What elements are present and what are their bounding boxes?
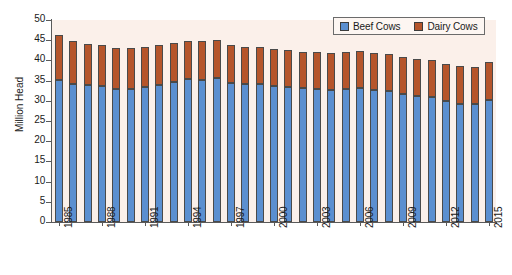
bar-segment-dairy-cows[interactable] [370,53,378,90]
bar-segment-beef-cows[interactable] [413,96,421,222]
bar-segment-dairy-cows[interactable] [356,51,364,88]
bar-segment-beef-cows[interactable] [256,84,264,222]
bar-group[interactable] [227,45,235,222]
bar-group[interactable] [69,41,77,222]
bar-group[interactable] [456,66,464,222]
bar-group[interactable] [399,57,407,222]
bar-segment-beef-cows[interactable] [471,104,479,222]
bar-group[interactable] [413,59,421,222]
bar-group[interactable] [170,43,178,222]
bar-segment-dairy-cows[interactable] [342,52,350,88]
bar-segment-dairy-cows[interactable] [485,62,493,100]
bar-segment-beef-cows[interactable] [442,101,450,222]
bar-segment-beef-cows[interactable] [127,89,135,222]
bar-segment-dairy-cows[interactable] [456,66,464,103]
bar-segment-beef-cows[interactable] [241,84,249,222]
bar-group[interactable] [428,60,436,222]
bar-group[interactable] [155,45,163,222]
bar-segment-beef-cows[interactable] [184,79,192,222]
bar-segment-dairy-cows[interactable] [471,67,479,104]
bar-segment-dairy-cows[interactable] [413,59,421,96]
bar-group[interactable] [342,52,350,222]
bar-group[interactable] [442,64,450,222]
legend-entry[interactable]: Beef Cows [340,21,400,32]
bar-segment-dairy-cows[interactable] [84,44,92,86]
bar-segment-beef-cows[interactable] [356,88,364,222]
bar-segment-beef-cows[interactable] [456,104,464,222]
bar-segment-beef-cows[interactable] [399,94,407,222]
bar-segment-beef-cows[interactable] [370,90,378,222]
bar-segment-beef-cows[interactable] [299,88,307,222]
bar-group[interactable] [370,53,378,222]
bar-segment-dairy-cows[interactable] [299,52,307,89]
bar-segment-dairy-cows[interactable] [98,45,106,86]
bar-segment-dairy-cows[interactable] [227,45,235,83]
x-tick-label: 1997 [235,207,246,228]
bar-segment-beef-cows[interactable] [55,80,63,222]
bar-segment-beef-cows[interactable] [428,97,436,222]
bar-segment-beef-cows[interactable] [69,84,77,222]
bar-segment-dairy-cows[interactable] [155,45,163,85]
bar-segment-beef-cows[interactable] [213,78,221,222]
bar-segment-beef-cows[interactable] [284,87,292,222]
bar-group[interactable] [270,49,278,222]
bar-group[interactable] [127,48,135,222]
bar-segment-dairy-cows[interactable] [399,57,407,94]
bar-segment-dairy-cows[interactable] [69,41,77,85]
bar-segment-dairy-cows[interactable] [442,64,450,101]
bar-segment-dairy-cows[interactable] [213,40,221,78]
bar-segment-beef-cows[interactable] [155,85,163,222]
bar-segment-dairy-cows[interactable] [141,47,149,87]
bar-segment-dairy-cows[interactable] [284,50,292,87]
legend-entry[interactable]: Dairy Cows [414,21,477,32]
bar-group[interactable] [112,48,120,222]
bar-group[interactable] [141,47,149,222]
bar-segment-beef-cows[interactable] [84,85,92,222]
y-tick-label: 5 [1,196,45,206]
bar-group[interactable] [313,52,321,222]
bar-group[interactable] [299,52,307,222]
x-tick-label: 2015 [493,207,504,228]
bar-segment-beef-cows[interactable] [342,89,350,222]
bar-group[interactable] [471,67,479,222]
bar-segment-dairy-cows[interactable] [112,48,120,88]
bar-segment-dairy-cows[interactable] [55,35,63,80]
bar-segment-dairy-cows[interactable] [327,53,335,89]
bar-segment-beef-cows[interactable] [170,82,178,222]
bar-group[interactable] [55,35,63,222]
bar-segment-beef-cows[interactable] [198,80,206,222]
bar-group[interactable] [198,41,206,222]
bar-segment-dairy-cows[interactable] [385,54,393,92]
bar-segment-beef-cows[interactable] [385,91,393,222]
bar-segment-dairy-cows[interactable] [198,41,206,79]
bar-group[interactable] [241,47,249,222]
bar-segment-dairy-cows[interactable] [256,47,264,84]
x-tick-label: 2003 [321,207,332,228]
bar-segment-beef-cows[interactable] [98,86,106,222]
bar-group[interactable] [213,40,221,222]
bar-group[interactable] [256,47,264,222]
bar-group[interactable] [98,45,106,222]
bar-segment-dairy-cows[interactable] [270,49,278,86]
bar-segment-dairy-cows[interactable] [428,60,436,97]
bar-group[interactable] [385,54,393,222]
bar-segment-dairy-cows[interactable] [313,52,321,89]
bar-segment-beef-cows[interactable] [485,100,493,222]
x-tick-label: 1991 [149,207,160,228]
bar-group[interactable] [184,41,192,222]
bar-group[interactable] [327,53,335,222]
bar-segment-dairy-cows[interactable] [241,47,249,84]
bar-segment-dairy-cows[interactable] [127,48,135,89]
bar-segment-beef-cows[interactable] [270,86,278,222]
bar-group[interactable] [485,62,493,222]
bar-group[interactable] [356,51,364,222]
bar-group[interactable] [84,44,92,222]
bar-group[interactable] [284,50,292,222]
bar-segment-beef-cows[interactable] [227,83,235,222]
bar-segment-beef-cows[interactable] [112,89,120,222]
bar-segment-beef-cows[interactable] [313,89,321,222]
bar-segment-beef-cows[interactable] [327,90,335,223]
bar-segment-dairy-cows[interactable] [170,43,178,82]
bar-segment-beef-cows[interactable] [141,87,149,222]
bar-segment-dairy-cows[interactable] [184,41,192,79]
